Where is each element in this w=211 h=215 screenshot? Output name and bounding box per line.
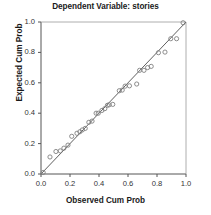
- scatter-point: [181, 21, 185, 25]
- plot-area: [0, 0, 211, 215]
- pp-plot-chart: Dependent Variable: stories Expected Cum…: [0, 0, 211, 215]
- scatter-point: [127, 84, 131, 88]
- scatter-point: [174, 37, 178, 41]
- data-point-markers: [41, 21, 185, 175]
- scatter-point: [70, 134, 74, 138]
- scatter-point: [48, 155, 52, 159]
- scatter-point: [135, 82, 139, 86]
- scatter-point: [169, 37, 173, 41]
- scatter-point: [163, 50, 167, 54]
- scatter-point: [54, 149, 58, 153]
